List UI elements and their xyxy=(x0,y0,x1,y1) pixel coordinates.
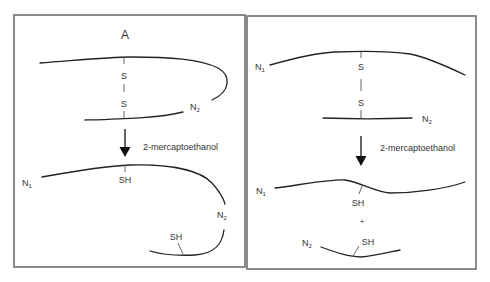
plus-sign: + xyxy=(360,217,365,226)
panel-left-border xyxy=(14,15,245,267)
thiol-group-1: SH xyxy=(119,175,132,185)
reagent-label: 2-mercaptoethanol xyxy=(143,142,218,152)
reagent-label: 2-mercaptoethanol xyxy=(380,143,455,153)
sulfur-atom-top: S xyxy=(358,62,364,72)
sulfur-atom-bottom: S xyxy=(358,98,364,108)
thiol-group-2: SH xyxy=(362,237,375,247)
thiol-group-1: SH xyxy=(352,198,365,208)
sulfur-atom-bottom: S xyxy=(121,99,127,109)
sulfur-atom-top: S xyxy=(121,71,127,81)
panel-title: A xyxy=(121,28,129,42)
thiol-group-2: SH xyxy=(170,232,183,242)
panel-left: A S S N2 2-mercaptoethanol N1 SH N2 SH xyxy=(14,15,245,267)
panel-right: N1 S S N2 2-mercaptoethanol N1 SH + N2 S… xyxy=(247,16,476,269)
disulfide-reduction-diagram: A S S N2 2-mercaptoethanol N1 SH N2 SH N… xyxy=(0,0,490,282)
